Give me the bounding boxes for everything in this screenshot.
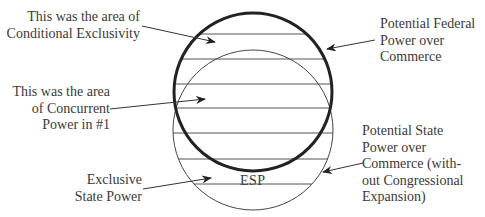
federal-power-circle: [174, 13, 332, 171]
esp-label: ESP: [240, 173, 266, 189]
label-line: This was the area of: [7, 9, 140, 26]
label-line: of Concurrent: [12, 101, 110, 118]
exclusive-state-power-label: Exclusive State Power: [75, 172, 142, 205]
label-line: Expansion): [362, 189, 464, 206]
label-line: Potential Federal: [380, 16, 475, 33]
concurrent-power-label: This was the area of Concurrent Power in…: [12, 84, 110, 134]
label-line: This was the area: [12, 84, 110, 101]
hatch-lines: [160, 34, 345, 184]
label-line: Power over: [362, 140, 464, 157]
label-line: Potential State: [362, 123, 464, 140]
label-line: Conditional Exclusivity: [7, 26, 140, 43]
label-line: Power over: [380, 33, 475, 50]
label-line: Exclusive: [75, 172, 142, 189]
federal-power-label: Potential Federal Power over Commerce: [380, 16, 475, 66]
label-line: State Power: [75, 189, 142, 206]
label-line: out Congressional: [362, 173, 464, 190]
label-line: Power in #1: [12, 117, 110, 134]
state-power-label: Potential State Power over Commerce (wit…: [362, 123, 464, 206]
label-line: Commerce (with-: [362, 156, 464, 173]
conditional-exclusivity-label: This was the area of Conditional Exclusi…: [7, 9, 140, 42]
label-line: Commerce: [380, 49, 475, 66]
